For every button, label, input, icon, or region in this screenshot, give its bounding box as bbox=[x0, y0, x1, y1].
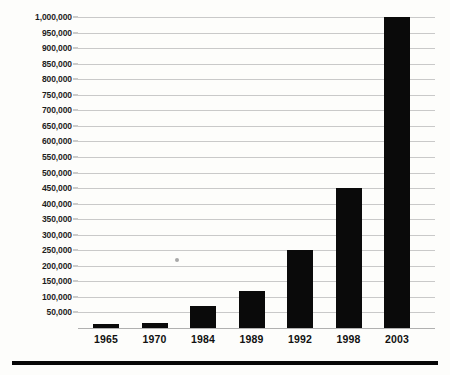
y-axis-tick-label: 900,000 bbox=[0, 43, 72, 53]
axis-baseline bbox=[78, 328, 435, 329]
x-axis-tick-label: 1970 bbox=[143, 333, 167, 345]
y-axis-tick-label: 750,000 bbox=[0, 90, 72, 100]
y-axis-tick-label: 150,000 bbox=[0, 276, 72, 286]
x-axis-tick-label: 1965 bbox=[94, 333, 118, 345]
y-axis-tick-label: 850,000 bbox=[0, 59, 72, 69]
y-axis-tick-label: 950,000 bbox=[0, 28, 72, 38]
x-axis-tick-label: 2003 bbox=[385, 333, 409, 345]
y-axis-tick-label: 250,000 bbox=[0, 245, 72, 255]
y-axis-tick-label: 800,000 bbox=[0, 74, 72, 84]
y-axis-tick-label: 450,000 bbox=[0, 183, 72, 193]
x-axis-labels: 1965197019841989199219982003 bbox=[78, 333, 435, 353]
x-axis-tick-label: 1998 bbox=[337, 333, 361, 345]
bar bbox=[93, 324, 119, 328]
y-axis-tick-label: 650,000 bbox=[0, 121, 72, 131]
bar bbox=[336, 188, 362, 328]
y-axis-tick-label: 700,000 bbox=[0, 105, 72, 115]
bars-layer bbox=[78, 17, 435, 328]
bar-chart: 50,000100,000150,000200,000250,000300,00… bbox=[0, 0, 450, 375]
y-axis-tick-label: 300,000 bbox=[0, 230, 72, 240]
bar bbox=[190, 306, 216, 328]
bar bbox=[142, 323, 168, 328]
y-axis-tick-label: 200,000 bbox=[0, 261, 72, 271]
x-axis-tick-label: 1984 bbox=[191, 333, 215, 345]
y-axis-tick-label: 50,000 bbox=[0, 307, 72, 317]
x-axis-tick-label: 1989 bbox=[240, 333, 264, 345]
bar bbox=[239, 291, 265, 328]
y-axis-tick-label: 600,000 bbox=[0, 136, 72, 146]
scan-artifact-speck bbox=[175, 258, 179, 262]
y-axis-tick-label: 1,000,000 bbox=[0, 12, 72, 22]
bar bbox=[384, 17, 410, 328]
y-axis-tick-label: 550,000 bbox=[0, 152, 72, 162]
y-axis-tick-label: 100,000 bbox=[0, 292, 72, 302]
y-axis-labels: 50,000100,000150,000200,000250,000300,00… bbox=[0, 17, 72, 328]
y-axis-tick-label: 400,000 bbox=[0, 199, 72, 209]
y-axis-tick-label: 500,000 bbox=[0, 168, 72, 178]
x-axis-tick-label: 1992 bbox=[288, 333, 312, 345]
bottom-rule bbox=[12, 361, 438, 365]
bar bbox=[287, 250, 313, 328]
y-axis-tick-label: 350,000 bbox=[0, 214, 72, 224]
